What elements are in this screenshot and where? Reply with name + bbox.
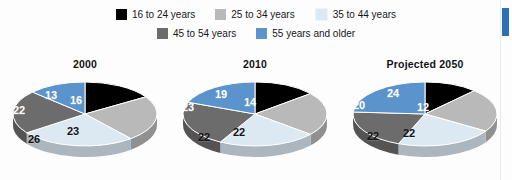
legend-item-label: 25 to 34 years <box>231 9 294 20</box>
legend-swatch-16-24 <box>116 9 127 20</box>
legend-row-2: 45 to 54 years55 years and older <box>0 28 512 39</box>
legend-row-1: 16 to 24 years25 to 34 years35 to 44 yea… <box>0 8 512 21</box>
chart-legend: 16 to 24 years25 to 34 years35 to 44 yea… <box>0 8 512 46</box>
legend-item[interactable]: 25 to 34 years <box>215 9 294 20</box>
pie-slice[interactable] <box>353 82 425 114</box>
page-edge-rule <box>500 0 501 180</box>
legend-item[interactable]: 45 to 54 years <box>157 28 236 39</box>
pie-chart-1: 20001623262213 <box>0 58 170 160</box>
pie-chart-3: Projected 20501222222024 <box>340 58 510 160</box>
legend-swatch-55-plus <box>256 28 267 39</box>
legend-item[interactable]: 16 to 24 years <box>116 9 195 20</box>
legend-item-label: 45 to 54 years <box>173 28 236 39</box>
pie-chart-2: 20101422222319 <box>170 58 340 160</box>
pie-svg <box>7 74 163 160</box>
pie-svg <box>347 74 503 160</box>
legend-swatch-25-34 <box>215 9 226 20</box>
legend-swatch-45-54 <box>157 28 168 39</box>
chart-title: 2010 <box>170 58 340 72</box>
legend-item-label: 35 to 44 years <box>333 9 396 20</box>
pie-wrapper: 1422222319 <box>177 74 333 160</box>
legend-item-label: 55 years and older <box>272 28 355 39</box>
legend-swatch-35-44 <box>315 8 328 21</box>
legend-item-label: 16 to 24 years <box>132 9 195 20</box>
scrollbar-thumb[interactable] <box>502 8 509 36</box>
chart-title: Projected 2050 <box>340 58 510 72</box>
legend-item[interactable]: 35 to 44 years <box>315 8 396 21</box>
chart-title: 2000 <box>0 58 170 72</box>
chart-canvas: 16 to 24 years25 to 34 years35 to 44 yea… <box>0 0 512 180</box>
pie-wrapper: 1623262213 <box>7 74 163 160</box>
pie-svg <box>177 74 333 160</box>
pie-wrapper: 1222222024 <box>347 74 503 160</box>
pie-chart-group: 2000162326221320101422222319Projected 20… <box>0 58 512 160</box>
legend-item[interactable]: 55 years and older <box>256 28 355 39</box>
